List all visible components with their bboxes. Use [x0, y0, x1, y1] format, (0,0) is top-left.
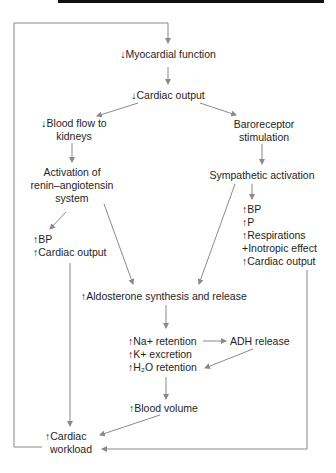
node-aldosterone: ↑Aldosterone synthesis and release — [81, 290, 247, 303]
node-label: ↑H₂O retention — [128, 361, 197, 374]
node-retention: ↑Na+ retention ↑K+ excretion ↑H₂O retent… — [128, 335, 197, 374]
node-label: ↑Respirations — [242, 229, 317, 242]
node-label: ↓Myocardial function — [108, 48, 228, 61]
node-right-effects: ↑BP ↑P ↑Respirations +Inotropic effect ↑… — [242, 203, 317, 268]
node-label: +Inotropic effect — [242, 242, 317, 255]
node-label: ↑Blood volume — [129, 402, 198, 415]
node-adh-release: ADH release — [230, 335, 290, 348]
node-label: workload — [45, 443, 92, 456]
node-label: system — [22, 192, 122, 205]
node-label: Baroreceptor — [222, 118, 306, 131]
node-label: ↑K+ excretion — [128, 348, 197, 361]
node-label: Sympathetic activation — [202, 169, 322, 182]
node-label: Activation of — [22, 166, 122, 179]
node-left-effects: ↑BP ↑Cardiac output — [33, 233, 107, 259]
node-label: kidneys — [32, 130, 116, 143]
node-label: ↑Cardiac — [45, 430, 92, 443]
node-sympathetic-activation: Sympathetic activation — [202, 169, 322, 182]
node-cardiac-output-decrease: ↓Cardiac output — [118, 89, 218, 102]
node-label: ↑Na+ retention — [128, 335, 197, 348]
node-label: ↓Cardiac output — [118, 89, 218, 102]
node-baroreceptor-stimulation: Baroreceptor stimulation — [222, 118, 306, 144]
node-label: renin–angiotensin — [22, 179, 122, 192]
node-label: ↑Aldosterone synthesis and release — [81, 290, 247, 303]
node-label: ↑P — [242, 216, 317, 229]
node-label: ↑BP — [242, 203, 317, 216]
node-cardiac-workload: ↑Cardiac workload — [45, 430, 92, 456]
node-label: ↑BP — [33, 233, 107, 246]
node-label: ↓Blood flow to — [32, 117, 116, 130]
node-label: ↑Cardiac output — [242, 255, 317, 268]
node-label: ADH release — [230, 335, 290, 348]
node-label: ↑Cardiac output — [33, 246, 107, 259]
node-blood-flow-kidneys: ↓Blood flow to kidneys — [32, 117, 116, 143]
node-blood-volume: ↑Blood volume — [129, 402, 198, 415]
node-myocardial-function: ↓Myocardial function — [108, 48, 228, 61]
node-label: stimulation — [222, 131, 306, 144]
node-renin-angiotensin-activation: Activation of renin–angiotensin system — [22, 166, 122, 205]
